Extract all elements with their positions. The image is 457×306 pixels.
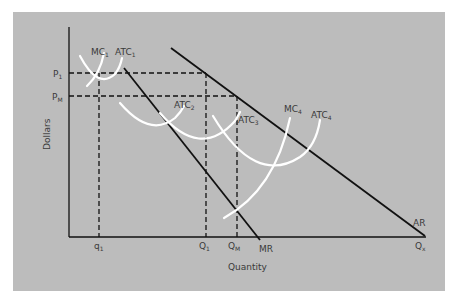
qm-label: QM xyxy=(228,241,240,252)
ar-label: AR xyxy=(413,218,425,228)
q1-label: Q1 xyxy=(199,241,210,252)
mc4-label: MC4 xyxy=(284,104,302,115)
y-axis-label: Dollars xyxy=(42,118,52,150)
mr-label: MR xyxy=(259,244,273,254)
x-axis-label: Quantity xyxy=(228,262,268,272)
mc1-label: MC1 xyxy=(91,47,109,58)
cost-revenue-diagram: Dollars Quantity P1 PM q1 Q1 QM Qx MC1 A… xyxy=(0,0,457,306)
atc3-label: ATC3 xyxy=(238,115,259,126)
atc1-curve xyxy=(80,56,122,79)
atc2-label: ATC2 xyxy=(174,100,195,111)
qx-label: Qx xyxy=(415,241,426,252)
atc4-curve xyxy=(213,116,320,165)
pm-label: PM xyxy=(52,92,63,103)
q1-small-label: q1 xyxy=(94,241,104,252)
atc4-label: ATC4 xyxy=(311,110,332,121)
mr-line xyxy=(124,68,260,240)
ar-demand-line xyxy=(171,48,425,236)
p1-label: P1 xyxy=(53,69,62,80)
atc1-label: ATC1 xyxy=(115,47,136,58)
mc4-curve xyxy=(224,118,290,218)
atc3-curve xyxy=(160,112,240,139)
